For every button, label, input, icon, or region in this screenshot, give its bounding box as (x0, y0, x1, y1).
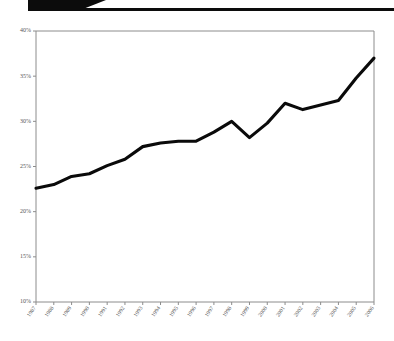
x-tick-label: 1993 (132, 305, 143, 318)
y-axis: 40%35%30%25%20%15%10% (20, 27, 374, 304)
y-tick-label: 40% (20, 27, 31, 33)
y-tick-label: 10% (20, 298, 31, 304)
x-tick-label: 2002 (292, 305, 303, 318)
chart-svg: 40%35%30%25%20%15%10% 198719881989199019… (0, 14, 394, 341)
x-axis: 1987198819891990199119921993199419951996… (25, 302, 374, 318)
x-tick-label: 1990 (79, 305, 90, 318)
y-tick-label: 35% (20, 73, 31, 79)
x-tick-label: 2003 (310, 305, 321, 318)
plot-frame (36, 31, 374, 302)
x-tick-label: 1996 (186, 305, 197, 318)
x-tick-label: 1997 (203, 305, 214, 318)
x-tick-label: 1988 (43, 305, 54, 318)
plot-series-group (36, 58, 374, 188)
x-tick-label: 1989 (61, 305, 72, 318)
y-tick-label: 15% (20, 253, 31, 259)
header-ghost-text (110, 0, 240, 9)
x-tick-label: 1994 (150, 305, 161, 318)
x-tick-label: 2004 (328, 305, 339, 318)
x-tick-label: 1998 (221, 305, 232, 318)
data-line (36, 58, 374, 188)
x-tick-label: 1987 (25, 305, 36, 318)
y-tick-label: 25% (20, 163, 31, 169)
x-tick-label: 2000 (257, 305, 268, 318)
x-tick-label: 2005 (346, 305, 357, 318)
x-tick-label: 1992 (114, 305, 125, 318)
page-header-band (0, 0, 394, 14)
x-tick-label: 1991 (97, 305, 108, 318)
y-tick-label: 20% (20, 208, 31, 214)
y-tick-label: 30% (20, 118, 31, 124)
x-tick-label: 1995 (168, 305, 179, 318)
x-tick-label: 1999 (239, 305, 250, 318)
x-tick-label: 2001 (275, 305, 286, 318)
line-chart: 40%35%30%25%20%15%10% 198719881989199019… (0, 14, 394, 341)
x-tick-label: 2006 (363, 305, 374, 318)
